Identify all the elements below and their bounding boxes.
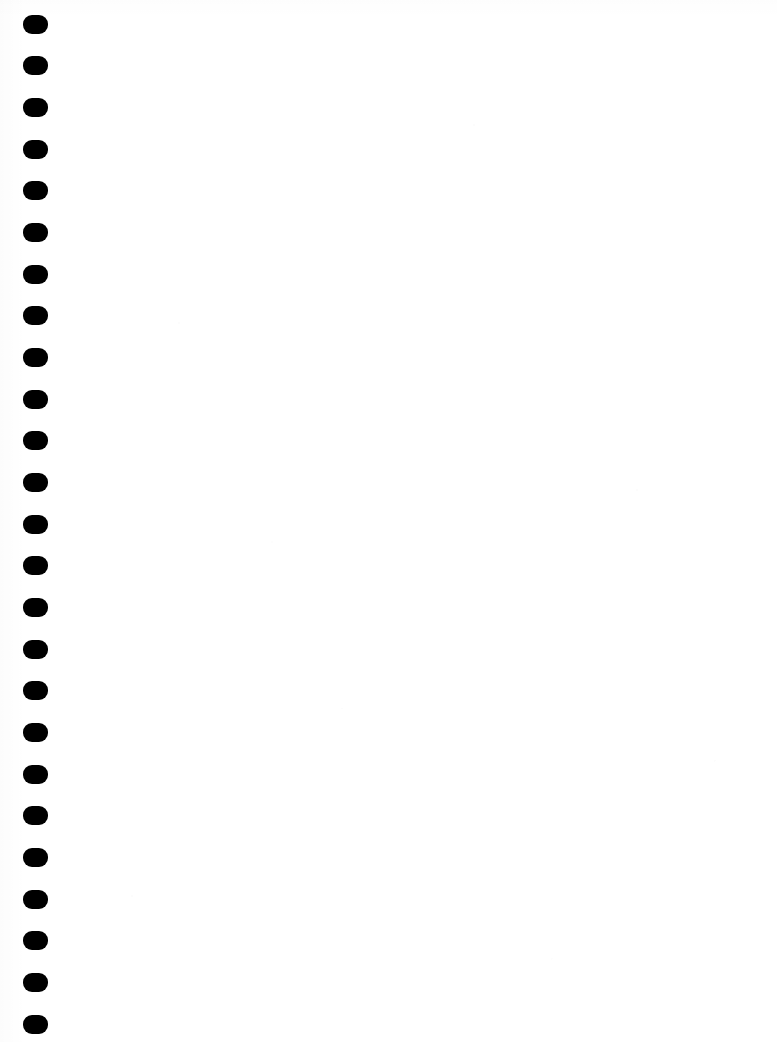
binding-hole: [23, 431, 48, 450]
binding-hole: [23, 348, 48, 367]
binding-hole: [23, 556, 48, 575]
binding-hole: [23, 765, 48, 784]
binding-hole: [23, 306, 48, 325]
binding-hole: [23, 390, 48, 409]
binding-hole: [23, 56, 48, 75]
binding-hole-column: [0, 0, 70, 1042]
binding-hole: [23, 98, 48, 117]
binding-hole: [23, 640, 48, 659]
binding-hole: [23, 848, 48, 867]
binding-hole: [23, 723, 48, 742]
binding-hole: [23, 806, 48, 825]
binding-hole: [23, 973, 48, 992]
binding-hole: [23, 265, 48, 284]
binding-hole: [23, 15, 48, 34]
binding-hole: [23, 223, 48, 242]
binding-hole: [23, 1015, 48, 1034]
scanned-page: [0, 0, 777, 1042]
page-body-blank-area: [70, 0, 777, 1042]
binding-hole: [23, 515, 48, 534]
binding-hole: [23, 681, 48, 700]
binding-hole: [23, 598, 48, 617]
binding-hole: [23, 931, 48, 950]
binding-hole: [23, 181, 48, 200]
binding-hole: [23, 890, 48, 909]
binding-hole: [23, 140, 48, 159]
binding-hole: [23, 473, 48, 492]
